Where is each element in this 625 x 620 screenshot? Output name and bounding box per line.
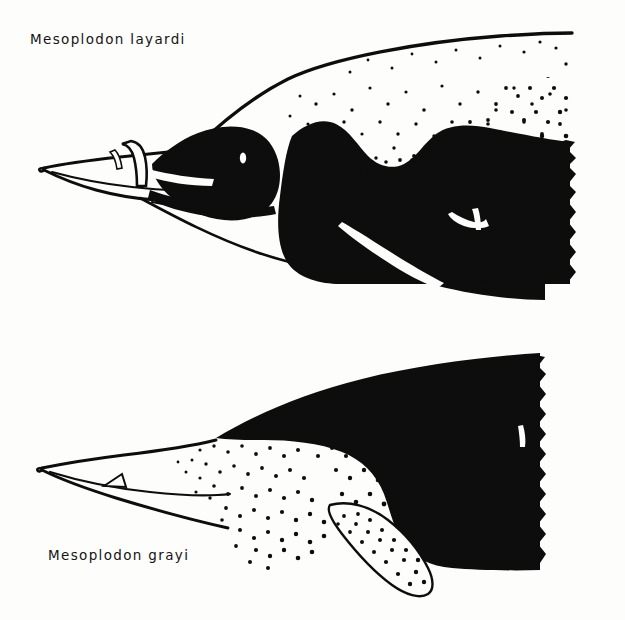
illustration-plate: Mesoplodon layardi [0, 0, 625, 620]
grayi-label: Mesoplodon grayi [48, 547, 189, 563]
layardi-label: Mesoplodon layardi [30, 31, 186, 47]
layardi-flank-patch [278, 121, 570, 284]
whale-plate-svg: Mesoplodon layardi [0, 0, 625, 620]
grayi-eye-spot [219, 460, 225, 469]
layardi-eye-spot [240, 153, 246, 164]
